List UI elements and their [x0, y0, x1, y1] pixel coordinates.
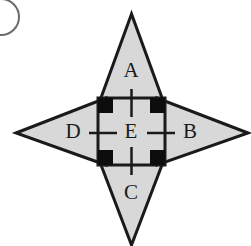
corner-block-top-left — [98, 98, 113, 113]
corner-block-bottom-left — [98, 150, 113, 165]
label-a: A — [123, 58, 139, 82]
label-d: D — [65, 119, 80, 143]
label-e: E — [125, 119, 138, 143]
corner-block-bottom-right — [150, 150, 165, 165]
star-diagram: A B C D E — [0, 0, 251, 246]
corner-block-top-right — [150, 98, 165, 113]
label-b: B — [183, 119, 197, 143]
figure-canvas: A B C D E — [0, 0, 251, 246]
label-c: C — [124, 180, 138, 204]
